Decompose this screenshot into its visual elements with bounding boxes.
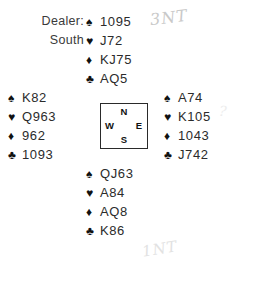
hand-south-hearts: A84 xyxy=(99,183,125,202)
hand-south-spades-row: ♠ QJ63 xyxy=(86,164,133,183)
compass-west-label: W xyxy=(105,121,114,131)
spade-icon: ♠ xyxy=(8,89,21,108)
compass-east-label: E xyxy=(136,121,142,131)
hand-north-clubs-row: ♣ AQ5 xyxy=(86,69,132,88)
hand-south-diamonds: AQ8 xyxy=(99,202,128,221)
diamond-icon: ♦ xyxy=(86,203,99,222)
hand-north-diamonds-row: ♦ KJ75 xyxy=(86,50,132,69)
hand-north-clubs: AQ5 xyxy=(99,69,128,88)
spade-icon: ♠ xyxy=(164,89,177,108)
hand-south-hearts-row: ♥ A84 xyxy=(86,183,133,202)
hand-east-hearts: K105 xyxy=(177,107,211,126)
hand-east-spades-row: ♠ A74 xyxy=(164,88,211,107)
hand-east-hearts-row: ♥ K105 xyxy=(164,107,211,126)
club-icon: ♣ xyxy=(86,222,99,241)
hand-north-spades: 1095 xyxy=(99,12,131,31)
hand-east: ♠ A74 ♥ K105 ♦ 1043 ♣ J742 xyxy=(164,88,211,164)
compass-box: N W E S xyxy=(100,103,148,149)
heart-icon: ♥ xyxy=(86,32,99,51)
diamond-icon: ♦ xyxy=(164,127,177,146)
spade-icon: ♠ xyxy=(86,13,99,32)
hand-east-diamonds-row: ♦ 1043 xyxy=(164,126,211,145)
hand-west-clubs-row: ♣ 1093 xyxy=(8,145,56,164)
heart-icon: ♥ xyxy=(8,108,21,127)
compass-north-label: N xyxy=(101,107,147,117)
club-icon: ♣ xyxy=(8,146,21,165)
dealer-label: Dealer: xyxy=(22,12,84,31)
hand-east-clubs: J742 xyxy=(177,145,209,164)
diamond-icon: ♦ xyxy=(86,51,99,70)
hand-north-diamonds: KJ75 xyxy=(99,50,132,69)
hand-north: ♠ 1095 ♥ J72 ♦ KJ75 ♣ AQ5 xyxy=(86,12,132,88)
hand-west-diamonds: 962 xyxy=(21,126,46,145)
handwritten-mark-east: ? xyxy=(218,103,227,119)
club-icon: ♣ xyxy=(164,146,177,165)
hand-north-hearts: J72 xyxy=(99,31,123,50)
handwritten-annotation-bottom: 1NT xyxy=(141,237,179,260)
hand-east-spades: A74 xyxy=(177,88,203,107)
hand-north-spades-row: ♠ 1095 xyxy=(86,12,132,31)
hand-north-hearts-row: ♥ J72 xyxy=(86,31,132,50)
spade-icon: ♠ xyxy=(86,165,99,184)
bridge-deal-diagram: Dealer: South 3NT 1NT ? ♠ 1095 ♥ J72 ♦ K… xyxy=(0,0,253,285)
hand-west-diamonds-row: ♦ 962 xyxy=(8,126,56,145)
hand-west-spades-row: ♠ K82 xyxy=(8,88,56,107)
heart-icon: ♥ xyxy=(164,108,177,127)
hand-south-spades: QJ63 xyxy=(99,164,133,183)
hand-east-diamonds: 1043 xyxy=(177,126,209,145)
hand-east-clubs-row: ♣ J742 xyxy=(164,145,211,164)
hand-west: ♠ K82 ♥ Q963 ♦ 962 ♣ 1093 xyxy=(8,88,56,164)
compass-south-label: S xyxy=(101,135,147,145)
club-icon: ♣ xyxy=(86,70,99,89)
diamond-icon: ♦ xyxy=(8,127,21,146)
hand-south: ♠ QJ63 ♥ A84 ♦ AQ8 ♣ K86 xyxy=(86,164,133,240)
hand-south-clubs-row: ♣ K86 xyxy=(86,221,133,240)
heart-icon: ♥ xyxy=(86,184,99,203)
hand-west-spades: K82 xyxy=(21,88,47,107)
handwritten-annotation-top: 3NT xyxy=(149,6,189,29)
dealer-info: Dealer: South xyxy=(22,12,84,50)
hand-south-clubs: K86 xyxy=(99,221,125,240)
hand-west-hearts-row: ♥ Q963 xyxy=(8,107,56,126)
hand-south-diamonds-row: ♦ AQ8 xyxy=(86,202,133,221)
hand-west-hearts: Q963 xyxy=(21,107,56,126)
hand-west-clubs: 1093 xyxy=(21,145,53,164)
dealer-value: South xyxy=(22,31,84,50)
